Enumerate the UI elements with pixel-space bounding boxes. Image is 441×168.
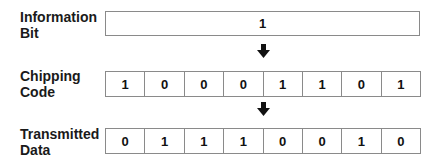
down-arrow-icon (257, 102, 270, 116)
data-cell: 0 (106, 129, 145, 153)
information-bit-box: 1 (105, 11, 420, 36)
information-bit-value: 1 (259, 16, 266, 31)
data-cell: 0 (264, 129, 303, 153)
chip-cell: 1 (264, 72, 303, 96)
chip-cell: 1 (106, 72, 145, 96)
information-bit-label-line1: Information (20, 9, 97, 25)
chip-cell: 1 (303, 72, 342, 96)
chipping-code-label-line2: Code (20, 84, 81, 100)
data-cell: 1 (185, 129, 224, 153)
transmitted-data-row: 0 1 1 1 0 0 1 0 (105, 128, 421, 154)
data-cell: 1 (145, 129, 184, 153)
chip-cell: 0 (145, 72, 184, 96)
chip-cell: 0 (185, 72, 224, 96)
information-bit-label-line2: Bit (20, 25, 97, 41)
data-cell: 0 (303, 129, 342, 153)
transmitted-data-label: Transmitted Data (20, 126, 99, 158)
data-cell: 1 (224, 129, 263, 153)
transmitted-data-label-line2: Data (20, 142, 99, 158)
data-cell: 1 (342, 129, 381, 153)
chipping-code-row: 1 0 0 0 1 1 0 1 (105, 71, 421, 97)
information-bit-label: Information Bit (20, 9, 97, 41)
chip-cell: 1 (382, 72, 420, 96)
chipping-code-label-line1: Chipping (20, 68, 81, 84)
data-cell: 0 (382, 129, 420, 153)
transmitted-data-label-line1: Transmitted (20, 126, 99, 142)
chip-cell: 0 (224, 72, 263, 96)
chipping-code-label: Chipping Code (20, 68, 81, 100)
down-arrow-icon (257, 44, 270, 58)
chip-cell: 0 (342, 72, 381, 96)
